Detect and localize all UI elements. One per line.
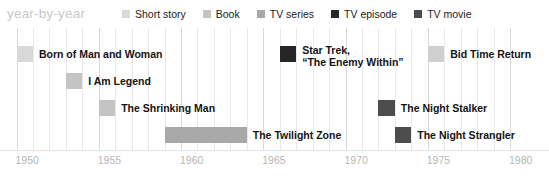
timeline-bar-label: I Am Legend [88, 75, 151, 87]
legend-swatch-icon-tv_series [257, 10, 265, 18]
timeline-bar-label-line1: Born of Man and Woman [39, 48, 162, 60]
x-axis-tick-label-1955: 1955 [98, 154, 121, 166]
legend-swatch-icon-book [203, 10, 211, 18]
timeline-bar-label-line1: The Night Stalker [401, 102, 487, 114]
plot-area: Born of Man and WomanI Am LegendThe Shri… [0, 28, 549, 150]
x-axis-tick-label-1965: 1965 [262, 154, 285, 166]
legend-swatch-icon-short_story [122, 10, 130, 18]
legend-label: Book [216, 9, 240, 20]
timeline-bar-label: Star Trek,“The Enemy Within” [302, 44, 403, 68]
timeline-bar[interactable] [395, 127, 411, 143]
timeline-bar[interactable] [280, 46, 296, 62]
legend-swatch-icon-tv_movie [414, 10, 422, 18]
legend-item-tv_series[interactable]: TV series [257, 9, 314, 20]
timeline-bar-label: Bid Time Return [450, 48, 531, 60]
timeline-bar-label-line1: The Twilight Zone [253, 129, 341, 141]
timeline-bar-label-line1: I Am Legend [88, 75, 151, 87]
gridline-1958 [148, 28, 149, 150]
chart-title: year-by-year [7, 6, 85, 21]
legend-item-book[interactable]: Book [203, 9, 240, 20]
x-axis: 1950195519601965197019751980 [0, 150, 549, 177]
gridline-1956 [115, 28, 116, 150]
legend-label: TV movie [427, 9, 471, 20]
year-by-year-timeline-chart: year-by-year Short storyBookTV seriesTV … [0, 0, 549, 177]
legend-label: Short story [135, 9, 186, 20]
timeline-bar-label-line1: The Night Strangler [417, 129, 514, 141]
timeline-bar[interactable] [165, 127, 247, 143]
timeline-bar[interactable] [66, 73, 82, 89]
timeline-bar-label: The Night Strangler [417, 129, 514, 141]
timeline-bar-label: Born of Man and Woman [39, 48, 162, 60]
chart-header: year-by-year Short storyBookTV seriesTV … [0, 0, 549, 28]
timeline-bar-label: The Night Stalker [401, 102, 487, 114]
legend-label: TV series [270, 9, 314, 20]
timeline-bar[interactable] [17, 46, 33, 62]
x-axis-tick-label-1970: 1970 [345, 154, 368, 166]
chart-legend: Short storyBookTV seriesTV episodeTV mov… [122, 7, 472, 21]
timeline-bar[interactable] [428, 46, 444, 62]
legend-label: TV episode [344, 9, 397, 20]
timeline-bar[interactable] [378, 100, 394, 116]
timeline-bar-label-line2: “The Enemy Within” [302, 56, 403, 68]
legend-item-tv_movie[interactable]: TV movie [414, 9, 471, 20]
x-axis-tick-label-1980: 1980 [509, 154, 532, 166]
gridline-1964 [247, 28, 248, 150]
timeline-bar-label-line1: Star Trek, [302, 44, 350, 56]
timeline-bar-label: The Shrinking Man [121, 102, 215, 114]
gridline-1955 [99, 28, 100, 150]
timeline-bar-label-line1: Bid Time Return [450, 48, 531, 60]
gridline-1951 [33, 28, 34, 150]
x-axis-line [0, 150, 549, 151]
x-axis-tick-label-1950: 1950 [16, 154, 39, 166]
timeline-bar[interactable] [99, 100, 115, 116]
timeline-bar-label-line1: The Shrinking Man [121, 102, 215, 114]
gridline-1953 [66, 28, 67, 150]
timeline-bar-label: The Twilight Zone [253, 129, 341, 141]
legend-swatch-icon-tv_episode [331, 10, 339, 18]
x-axis-tick-label-1960: 1960 [180, 154, 203, 166]
x-axis-tick-label-1975: 1975 [427, 154, 450, 166]
gridline-1952 [49, 28, 50, 150]
legend-item-tv_episode[interactable]: TV episode [331, 9, 397, 20]
gridline-1954 [82, 28, 83, 150]
legend-item-short_story[interactable]: Short story [122, 9, 186, 20]
gridline-1957 [132, 28, 133, 150]
